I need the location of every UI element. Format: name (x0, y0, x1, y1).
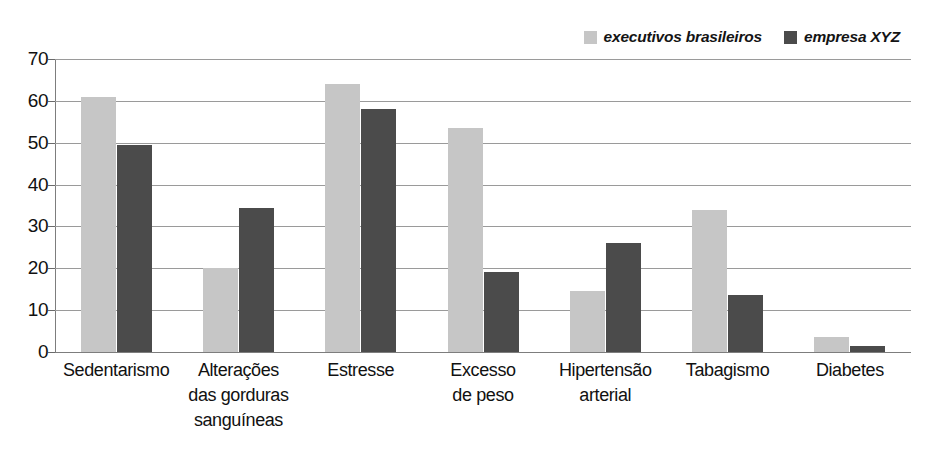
chart-legend: executivos brasileiros empresa XYZ (584, 28, 900, 46)
bar-series-a-1 (81, 97, 116, 352)
bar-series-a-2 (203, 268, 238, 352)
gridline-0 (55, 352, 911, 353)
legend-label-series-b: empresa XYZ (804, 28, 900, 46)
x-axis-labels: SedentarismoAlterações das gorduras sang… (55, 358, 911, 458)
bar-group-6 (692, 59, 763, 352)
legend-label-series-a: executivos brasileiros (604, 28, 762, 46)
y-axis-labels: 706050403020100 (0, 59, 48, 352)
y-tick-label-10: 10 (28, 299, 48, 321)
bar-series-b-3 (361, 109, 396, 352)
y-tick-label-40: 40 (28, 174, 48, 196)
y-tick-mark-0 (48, 352, 55, 353)
bar-series-b-6 (728, 295, 763, 352)
bar-chart: executivos brasileiros empresa XYZ 70605… (0, 0, 942, 464)
bar-group-1 (81, 59, 152, 352)
bar-group-5 (570, 59, 641, 352)
x-tick-label-7: Diabetes (777, 358, 923, 383)
legend-swatch-series-b (784, 31, 797, 44)
bar-groups (55, 59, 911, 352)
bar-series-b-1 (117, 145, 152, 352)
y-tick-mark-60 (48, 101, 55, 102)
y-tick-label-50: 50 (28, 132, 48, 154)
y-tick-mark-10 (48, 310, 55, 311)
bar-series-a-5 (570, 291, 605, 352)
y-tick-mark-50 (48, 143, 55, 144)
bar-series-b-2 (239, 208, 274, 352)
legend-entry-executivos-brasileiros: executivos brasileiros (584, 28, 762, 46)
bar-series-a-3 (325, 84, 360, 352)
bar-series-b-5 (606, 243, 641, 352)
y-tick-label-20: 20 (28, 257, 48, 279)
bar-series-b-7 (850, 346, 885, 352)
y-tick-mark-40 (48, 185, 55, 186)
bar-group-4 (448, 59, 519, 352)
bar-series-a-7 (814, 337, 849, 352)
bar-series-a-6 (692, 210, 727, 352)
bar-group-7 (814, 59, 885, 352)
y-tick-mark-20 (48, 268, 55, 269)
bar-group-2 (203, 59, 274, 352)
legend-entry-empresa-xyz: empresa XYZ (784, 28, 900, 46)
legend-swatch-series-a (584, 31, 597, 44)
y-tick-label-70: 70 (28, 48, 48, 70)
bar-series-a-4 (448, 128, 483, 352)
y-tick-label-60: 60 (28, 90, 48, 112)
bar-series-b-4 (484, 272, 519, 352)
y-tick-mark-30 (48, 226, 55, 227)
y-tick-label-30: 30 (28, 215, 48, 237)
bar-group-3 (325, 59, 396, 352)
y-tick-mark-70 (48, 59, 55, 60)
